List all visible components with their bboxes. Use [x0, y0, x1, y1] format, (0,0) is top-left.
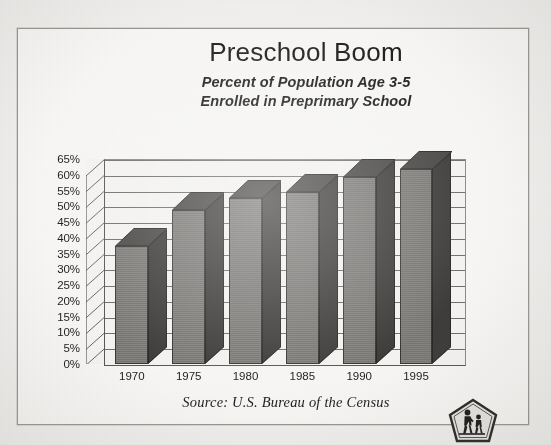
chart-bar-side-face: [205, 193, 224, 364]
y-axis: 0%5%10%15%20%25%30%35%40%45%50%55%60%65%: [18, 159, 84, 364]
chart-bar: [343, 177, 376, 364]
chart-bar: [115, 246, 148, 364]
page-title: Preschool Boom: [18, 39, 514, 66]
y-axis-tick-label: 0%: [64, 358, 80, 370]
chart-bar-front-face: [115, 246, 148, 364]
chart-bar: [229, 198, 262, 364]
x-axis-tick-label: 1990: [346, 370, 372, 382]
x-axis: 197019751980198519901995: [104, 370, 482, 392]
y-axis-tick-label: 5%: [64, 342, 80, 354]
y-axis-tick-label: 50%: [57, 200, 80, 212]
x-axis-tick-label: 1975: [176, 370, 202, 382]
title-block: Preschool Boom Percent of Population Age…: [18, 39, 514, 111]
chart-bar-side-face: [148, 229, 167, 364]
chart-bar-front-face: [286, 192, 319, 364]
chart-bar-front-face: [172, 210, 205, 364]
chart-bar-side-face: [319, 175, 338, 364]
chart-depth-wall: [86, 159, 105, 364]
chart-plot-area: 0%5%10%15%20%25%30%35%40%45%50%55%60%65%…: [18, 137, 528, 392]
source-note: Source: U.S. Bureau of the Census: [18, 394, 514, 411]
chart-subtitle-line-1: Percent of Population Age 3-5: [18, 73, 514, 91]
chart-bar: [172, 210, 205, 364]
y-axis-tick-label: 15%: [57, 311, 80, 323]
y-axis-tick-label: 60%: [57, 169, 80, 181]
chart-bar-side-face: [262, 181, 281, 364]
y-axis-tick-label: 55%: [57, 185, 80, 197]
x-axis-tick-label: 1995: [403, 370, 429, 382]
chart-bar-side-face: [376, 160, 395, 364]
x-axis-tick-label: 1970: [119, 370, 145, 382]
y-axis-tick-label: 40%: [57, 232, 80, 244]
chart-bar: [286, 192, 319, 364]
x-axis-tick-label: 1980: [233, 370, 259, 382]
y-axis-tick-label: 10%: [57, 326, 80, 338]
chart-bar-front-face: [400, 169, 433, 364]
chart-subtitle-line-2: Enrolled in Preprimary School: [18, 92, 514, 110]
figure-card: Preschool Boom Percent of Population Age…: [17, 28, 529, 425]
y-axis-tick-label: 35%: [57, 248, 80, 260]
x-axis-tick-label: 1985: [290, 370, 316, 382]
y-axis-tick-label: 30%: [57, 263, 80, 275]
y-axis-tick-label: 25%: [57, 279, 80, 291]
chart-bar-front-face: [229, 198, 262, 364]
y-axis-tick-label: 20%: [57, 295, 80, 307]
chart-bar-side-face: [432, 152, 451, 364]
chart-bars: [104, 159, 464, 364]
school-crossing-sign-icon: [447, 398, 499, 443]
chart-bar: [400, 169, 433, 364]
y-axis-tick-label: 45%: [57, 216, 80, 228]
y-axis-tick-label: 65%: [57, 153, 80, 165]
chart-bar-front-face: [343, 177, 376, 364]
